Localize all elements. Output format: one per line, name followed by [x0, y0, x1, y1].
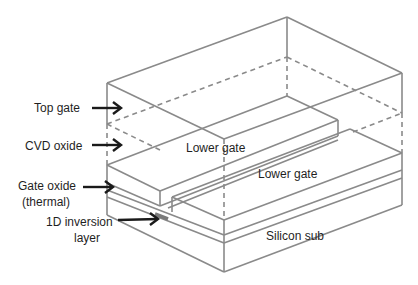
- label-top-gate: Top gate: [34, 101, 80, 115]
- dashed-right-boundary: [353, 113, 402, 132]
- label-silicon-sub: Silicon sub: [266, 229, 324, 243]
- cvd-oxide-arrow-icon: [92, 139, 121, 151]
- label-cvd-oxide: CVD oxide: [25, 139, 83, 153]
- box-top-front-edge: [107, 83, 224, 139]
- label-gate-oxide-thermal: (thermal): [22, 195, 70, 209]
- arrows: [83, 102, 158, 225]
- gate-oxide-arrow-icon: [83, 181, 113, 193]
- label-inversion-layer-2: layer: [74, 231, 100, 245]
- hidden-lines: [107, 57, 402, 220]
- lower-slab-top-back: [350, 129, 402, 153]
- dashed-left-boundary: [107, 57, 287, 124]
- box-top-left-edge: [107, 17, 287, 83]
- label-lower-gate-upper: Lower gate: [186, 141, 246, 155]
- outer-box: [107, 17, 402, 272]
- label-gate-oxide: Gate oxide: [18, 179, 76, 193]
- label-lower-gate-lower: Lower gate: [258, 167, 318, 181]
- box-bottom-left-edge: [107, 215, 224, 272]
- lower-slab-top-left: [172, 129, 350, 197]
- lower-slab-top-front: [172, 197, 224, 220]
- device-diagram: Top gate CVD oxide Gate oxide (thermal) …: [0, 0, 418, 285]
- box-top-right-edge: [224, 73, 402, 139]
- label-inversion-layer: 1D inversion: [46, 215, 113, 229]
